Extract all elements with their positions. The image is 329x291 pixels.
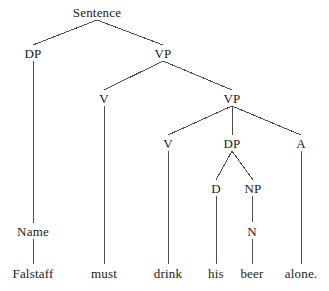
tree-node-dp2: DP: [223, 137, 240, 150]
tree-node-dp1: DP: [24, 47, 41, 60]
tree-node-name1: Name: [17, 225, 49, 238]
tree-edge: [232, 151, 253, 180]
tree-node-np1: NP: [244, 182, 261, 195]
tree-edge: [33, 20, 97, 45]
tree-terminal-falstaff: Falstaff: [12, 267, 53, 280]
tree-edge: [163, 61, 232, 90]
tree-node-v2: V: [163, 137, 173, 150]
tree-edge: [232, 106, 301, 135]
tree-node-v1: V: [99, 92, 109, 105]
tree-terminal-his: his: [208, 267, 224, 280]
tree-edge: [168, 106, 232, 135]
tree-edge: [104, 61, 163, 90]
tree-edge: [97, 20, 163, 45]
syntax-tree-figure: SentenceDPVPVVPVDPADNPNName Falstaffmust…: [0, 0, 329, 291]
tree-terminal-must: must: [91, 267, 117, 280]
tree-terminal-beer: beer: [240, 267, 263, 280]
tree-terminal-drink: drink: [154, 267, 182, 280]
tree-edge: [252, 196, 253, 223]
tree-node-vp2: VP: [223, 92, 240, 105]
tree-node-sentence: Sentence: [73, 6, 122, 19]
tree-edge: [216, 151, 232, 180]
tree-node-n1: N: [247, 225, 257, 238]
tree-node-a1: A: [296, 137, 306, 150]
tree-node-vp1: VP: [154, 47, 171, 60]
tree-terminal-alone: alone.: [285, 267, 318, 280]
tree-node-d1: D: [211, 182, 221, 195]
